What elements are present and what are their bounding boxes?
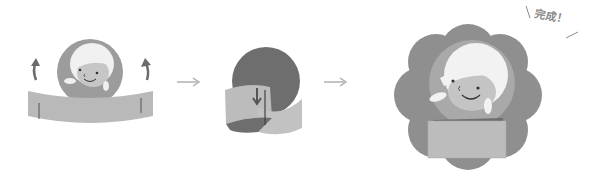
eye-icon [476, 86, 479, 89]
crown-band [428, 121, 506, 158]
curl-up-arrow-icon [141, 58, 151, 80]
next-step-arrow-icon [177, 78, 199, 86]
crown-assembly-diagram: 完成！ [0, 0, 609, 190]
eye-icon [96, 72, 99, 75]
step-3-illustration [394, 24, 542, 170]
complete-label: 完成！ [534, 6, 569, 27]
step-1-illustration [28, 39, 153, 123]
curl-up-arrow-icon [31, 58, 40, 80]
complete-callout: 完成！ [526, 6, 578, 38]
eye-icon [451, 79, 454, 82]
eye-icon [79, 69, 82, 72]
next-step-arrow-icon [324, 78, 346, 86]
step-2-illustration [225, 47, 302, 134]
